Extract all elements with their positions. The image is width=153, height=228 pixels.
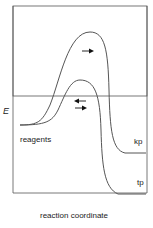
- reverse-arrow-lower-icon: [74, 99, 86, 104]
- y-axis-label: E: [3, 106, 9, 116]
- energy-diagram: [0, 0, 153, 228]
- forward-arrow-lower-icon: [75, 106, 87, 111]
- x-axis-label: reaction coordinate: [40, 211, 108, 220]
- kinetic-product-label: kp: [134, 137, 142, 146]
- forward-arrow-upper-icon: [82, 49, 94, 54]
- frame-top: [13, 6, 147, 96]
- reagents-label: reagents: [20, 135, 51, 144]
- thermodynamic-product-label: tp: [137, 178, 144, 187]
